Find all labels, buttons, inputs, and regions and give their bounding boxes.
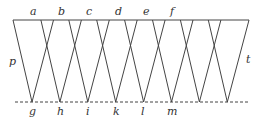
label-p: p: [9, 55, 16, 68]
label-b: b: [58, 5, 65, 18]
label-c: c: [86, 5, 92, 18]
label-m: m: [167, 105, 177, 118]
label-d: d: [115, 5, 122, 18]
v-shape: [13, 20, 54, 102]
v-pattern-diagram: a b c d e f p t g h i k l m: [0, 0, 259, 135]
v-shape: [69, 20, 110, 102]
label-i: i: [86, 105, 90, 118]
label-h: h: [57, 105, 64, 118]
label-l: l: [141, 105, 145, 118]
label-t: t: [246, 53, 251, 66]
label-f: f: [169, 5, 176, 18]
label-k: k: [113, 105, 120, 118]
v-shape: [41, 20, 82, 102]
v-shape: [180, 20, 221, 102]
v-shape: [97, 20, 138, 102]
v-shape: [153, 20, 194, 102]
label-g: g: [29, 105, 36, 118]
v-shape: [208, 20, 249, 102]
label-e: e: [143, 5, 150, 18]
v-shape: [125, 20, 166, 102]
label-a: a: [30, 5, 37, 18]
